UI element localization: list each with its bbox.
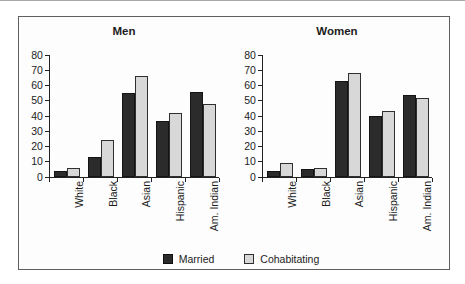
- y-tick-label-80: 80: [236, 49, 256, 62]
- x-tick-label-asian: Asian: [354, 181, 367, 207]
- bar-men-hispanic-married: [156, 121, 169, 177]
- cohabitating-swatch: [244, 254, 254, 264]
- x-tick-label-am-indian: Am. Indian: [209, 181, 222, 231]
- bar-women-hispanic-cohabitating: [382, 111, 395, 177]
- x-tick-label-black: Black: [320, 181, 333, 207]
- y-tick-mark: [45, 161, 49, 162]
- y-tick-mark: [45, 116, 49, 117]
- y-tick-label-50: 50: [236, 94, 256, 107]
- x-tick-label-black: Black: [107, 181, 120, 207]
- y-tick-label-20: 20: [236, 140, 256, 153]
- x-tick-label-hispanic: Hispanic: [175, 181, 188, 221]
- chart-frame: Men 01020304050607080 WhiteBlackAsianHis…: [18, 16, 450, 270]
- bar-men-am-indian-cohabitating: [203, 104, 216, 177]
- y-tick-label-70: 70: [236, 64, 256, 77]
- legend-label-married: Married: [179, 253, 215, 265]
- plot-area: [49, 55, 219, 178]
- bar-women-am-indian-cohabitating: [416, 98, 429, 177]
- chart-panel-men: Men 01020304050607080 WhiteBlackAsianHis…: [23, 25, 219, 248]
- bar-men-white-married: [54, 171, 67, 177]
- bar-men-hispanic-cohabitating: [169, 113, 182, 177]
- bar-women-hispanic-married: [369, 116, 382, 177]
- plot-row: 01020304050607080: [23, 55, 219, 178]
- y-tick-mark: [45, 100, 49, 101]
- bar-women-black-cohabitating: [314, 168, 327, 177]
- bar-women-white-married: [267, 171, 280, 177]
- page-edge-line: [0, 0, 465, 1]
- y-tick-mark: [258, 70, 262, 71]
- bar-women-asian-cohabitating: [348, 73, 361, 177]
- y-tick-mark: [258, 85, 262, 86]
- y-tick-label-0: 0: [23, 171, 43, 184]
- y-tick-mark: [45, 146, 49, 147]
- bar-women-white-cohabitating: [280, 163, 293, 177]
- y-tick-label-80: 80: [23, 49, 43, 62]
- x-tick-label-asian: Asian: [141, 181, 154, 207]
- plot-row: 01020304050607080: [236, 55, 432, 178]
- bar-men-asian-married: [122, 93, 135, 177]
- y-tick-mark: [258, 100, 262, 101]
- bar-men-am-indian-married: [190, 92, 203, 177]
- panel-title-men: Men: [39, 25, 209, 39]
- y-tick-mark: [258, 55, 262, 56]
- bar-men-black-married: [88, 157, 101, 177]
- y-tick-label-50: 50: [23, 94, 43, 107]
- panel-title-women: Women: [252, 25, 422, 39]
- y-tick-mark: [45, 55, 49, 56]
- legend-label-cohabitating: Cohabitating: [260, 253, 319, 265]
- legend-item-married: Married: [163, 253, 215, 265]
- x-tick-label-white: White: [286, 181, 299, 208]
- married-swatch: [163, 254, 173, 264]
- y-tick-label-20: 20: [23, 140, 43, 153]
- plot-area: [262, 55, 432, 178]
- x-tick-label-am-indian: Am. Indian: [422, 181, 435, 231]
- y-tick-label-10: 10: [236, 155, 256, 168]
- x-axis-labels: WhiteBlackAsianHispanicAm. Indian: [49, 178, 219, 248]
- chart-panel-women: Women 01020304050607080 WhiteBlackAsianH…: [236, 25, 432, 248]
- y-tick-label-0: 0: [236, 171, 256, 184]
- bar-women-asian-married: [335, 81, 348, 177]
- bar-men-white-cohabitating: [67, 168, 80, 177]
- y-tick-mark: [258, 131, 262, 132]
- y-tick-mark: [45, 70, 49, 71]
- bar-men-asian-cohabitating: [135, 76, 148, 177]
- figure-canvas: Men 01020304050607080 WhiteBlackAsianHis…: [0, 0, 465, 284]
- y-tick-mark: [45, 85, 49, 86]
- bar-men-black-cohabitating: [101, 140, 114, 177]
- y-tick-label-60: 60: [23, 79, 43, 92]
- y-tick-label-40: 40: [236, 110, 256, 123]
- y-tick-mark: [258, 116, 262, 117]
- bar-women-am-indian-married: [403, 95, 416, 177]
- y-tick-mark: [258, 146, 262, 147]
- legend-item-cohabitating: Cohabitating: [244, 253, 319, 265]
- y-tick-label-70: 70: [23, 64, 43, 77]
- y-tick-label-30: 30: [236, 125, 256, 138]
- x-axis-labels: WhiteBlackAsianHispanicAm. Indian: [262, 178, 432, 248]
- y-tick-label-30: 30: [23, 125, 43, 138]
- y-tick-label-10: 10: [23, 155, 43, 168]
- charts-row: Men 01020304050607080 WhiteBlackAsianHis…: [19, 17, 449, 248]
- legend: Married Cohabitating: [19, 248, 449, 269]
- y-tick-label-60: 60: [236, 79, 256, 92]
- bar-women-black-married: [301, 169, 314, 177]
- y-tick-mark: [45, 131, 49, 132]
- x-tick-label-hispanic: Hispanic: [388, 181, 401, 221]
- y-tick-mark: [258, 161, 262, 162]
- y-tick-label-40: 40: [23, 110, 43, 123]
- x-tick-label-white: White: [73, 181, 86, 208]
